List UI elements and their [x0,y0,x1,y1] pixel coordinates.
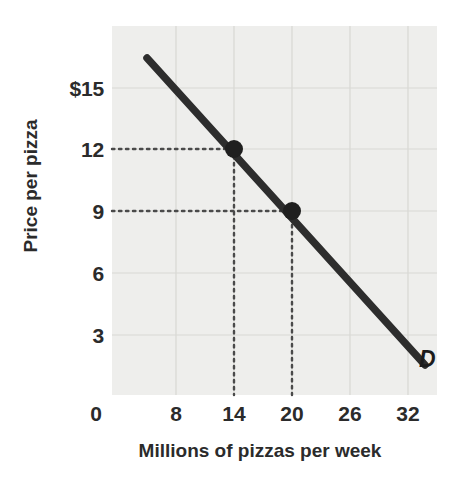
y-tick-9: 9 [44,201,104,222]
data-point-b [283,202,301,220]
x-tick-0: 0 [71,403,121,424]
data-point-a [225,140,243,158]
x-tick-14: 14 [209,403,259,424]
x-axis-tick-labels: 0 8 14 20 26 32 [0,403,474,433]
plot-canvas [112,26,437,395]
x-tick-20: 20 [267,403,317,424]
y-axis-tick-labels: $15 12 9 6 3 [40,0,104,400]
plot-area: D [112,26,437,395]
y-tick-15: $15 [44,78,104,99]
y-tick-6: 6 [44,263,104,284]
y-axis-title: Price per pizza [20,86,42,286]
x-tick-26: 26 [325,403,375,424]
x-tick-8: 8 [151,403,201,424]
y-tick-3: 3 [44,325,104,346]
demand-curve-figure: D $15 12 9 6 3 0 8 14 20 26 32 Price per… [0,0,474,481]
x-tick-32: 32 [383,403,433,424]
x-axis-title: Millions of pizzas per week [60,440,460,462]
y-tick-12: 12 [44,139,104,160]
curve-label-d: D [419,348,436,371]
